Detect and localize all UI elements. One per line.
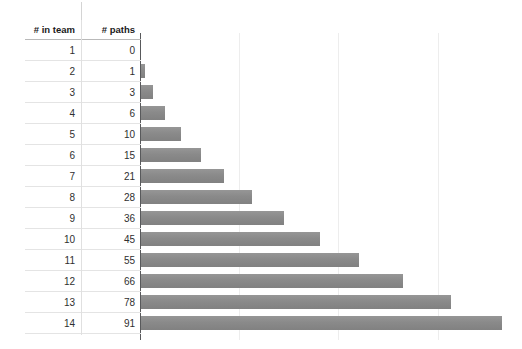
table-row: 1491 [25,313,141,334]
bar-row [141,250,522,271]
column-header-paths: # paths [82,20,141,39]
cell-path-count: 0 [82,40,141,60]
bar [141,190,252,204]
table-row: 10 [25,40,141,61]
cell-path-count: 3 [82,82,141,102]
cell-team-size: 10 [25,229,81,249]
bar [141,148,201,162]
cell-team-size: 11 [25,250,81,270]
cell-path-count: 6 [82,103,141,123]
bar [141,211,284,225]
bar-row [141,82,522,103]
bar [141,106,165,120]
table-row: 721 [25,166,141,187]
bar-row [141,292,522,313]
cell-path-count: 91 [82,313,141,333]
table-row: 33 [25,82,141,103]
bar-row [141,271,522,292]
bar-row [141,166,522,187]
bar [141,232,320,246]
cell-team-size: 5 [25,124,81,144]
cell-team-size: 8 [25,187,81,207]
table-row: 1378 [25,292,141,313]
bar-row [141,229,522,250]
bar-row [141,145,522,166]
cell-path-count: 10 [82,124,141,144]
table-row: 615 [25,145,141,166]
bar [141,274,403,288]
chart-bars [141,40,522,340]
cell-path-count: 28 [82,187,141,207]
cell-team-size: 9 [25,208,81,228]
column-divider-header [81,2,82,20]
table-bar-chart-figure: # in team # paths 1021334651061572182893… [0,0,522,349]
cell-path-count: 66 [82,271,141,291]
table-row: 510 [25,124,141,145]
bar-row [141,187,522,208]
cell-team-size: 2 [25,61,81,81]
bar [141,64,145,78]
cell-team-size: 13 [25,292,81,312]
table-row: 1266 [25,271,141,292]
cell-team-size: 7 [25,166,81,186]
cell-path-count: 1 [82,61,141,81]
bar [141,295,451,309]
column-divider [81,20,82,335]
cell-path-count: 36 [82,208,141,228]
cell-path-count: 21 [82,166,141,186]
bar [141,85,153,99]
cell-team-size: 12 [25,271,81,291]
bar-row [141,61,522,82]
data-table: # in team # paths 1021334651061572182893… [25,20,141,334]
table-body: 1021334651061572182893610451155126613781… [25,40,141,334]
column-header-team: # in team [25,20,81,39]
bar-row [141,208,522,229]
cell-path-count: 78 [82,292,141,312]
table-row: 46 [25,103,141,124]
bar-row [141,103,522,124]
cell-path-count: 55 [82,250,141,270]
bar-row [141,124,522,145]
bar [141,316,502,330]
cell-path-count: 45 [82,229,141,249]
bar-row [141,40,522,61]
table-row: 1155 [25,250,141,271]
table-row: 936 [25,208,141,229]
bar-row [141,313,522,334]
cell-team-size: 14 [25,313,81,333]
table-row: 828 [25,187,141,208]
table-row: 1045 [25,229,141,250]
table-row: 21 [25,61,141,82]
bar [141,127,181,141]
cell-team-size: 4 [25,103,81,123]
bar [141,169,224,183]
cell-team-size: 1 [25,40,81,60]
bar [141,253,359,267]
cell-team-size: 3 [25,82,81,102]
cell-path-count: 15 [82,145,141,165]
cell-team-size: 6 [25,145,81,165]
table-header-row: # in team # paths [25,20,141,40]
